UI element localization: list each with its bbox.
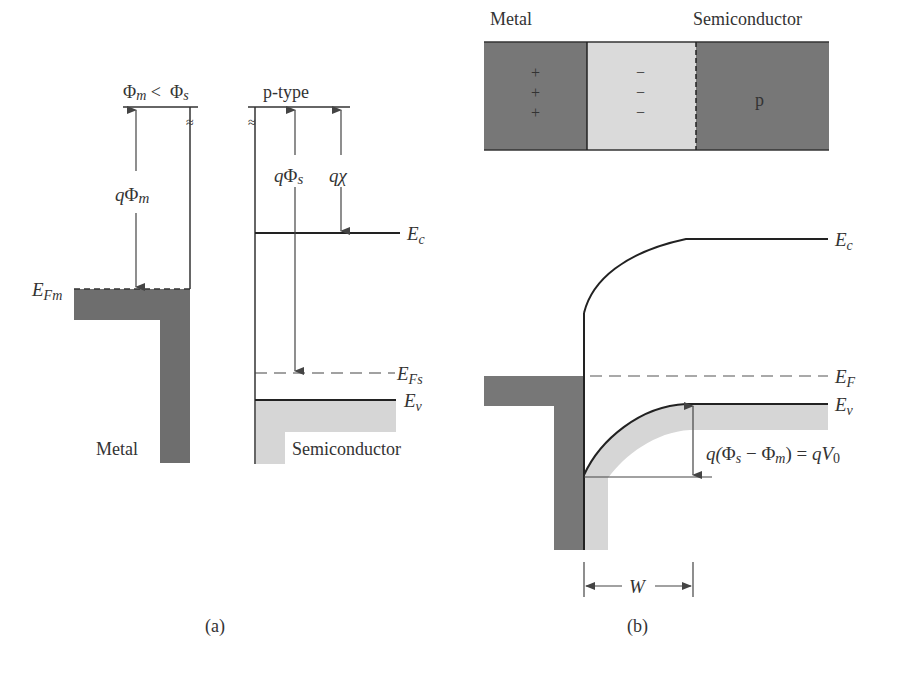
- break-symbol-icon: ≈: [248, 115, 256, 130]
- conduction-band-curve: [584, 239, 828, 313]
- panel-b-caption: (b): [627, 616, 648, 637]
- q-phi-m-label: qΦm: [115, 184, 149, 206]
- minus-sign: −: [636, 64, 645, 81]
- width-label: W: [629, 576, 647, 597]
- e-fs-label: EFs: [396, 363, 423, 387]
- e-c-label: Ec: [406, 223, 426, 247]
- valence-band-fill: [584, 404, 828, 478]
- positive-charges: + + +: [531, 64, 540, 121]
- panel-a: Φm < Φs p-type ≈ qΦm EFm Metal ≈ Ec: [31, 82, 426, 637]
- semiconductor-surface-fill: [584, 478, 608, 550]
- work-function-condition: Φm < Φs: [123, 82, 189, 103]
- e-v-label: Ev: [403, 390, 423, 414]
- e-c-label: Ec: [834, 229, 854, 253]
- panel-a-caption: (a): [205, 616, 225, 637]
- e-f-label: EF: [834, 366, 856, 390]
- p-label: p: [755, 90, 764, 110]
- barrier-height-label: q(Φs − Φm) = qV0: [706, 443, 840, 466]
- top-semiconductor-label: Semiconductor: [693, 9, 802, 29]
- top-metal-label: Metal: [490, 9, 532, 29]
- plus-sign: +: [531, 84, 540, 101]
- minus-sign: −: [636, 104, 645, 121]
- break-symbol-icon: ≈: [186, 115, 194, 130]
- semiconductor-type-label: p-type: [263, 82, 309, 102]
- metal-semiconductor-diagram: Φm < Φs p-type ≈ qΦm EFm Metal ≈ Ec: [0, 0, 905, 686]
- metal-label: Metal: [96, 439, 138, 459]
- q-phi-s-label: qΦs: [274, 165, 303, 187]
- panel-b: Metal Semiconductor + + + − − − p Ec: [484, 9, 856, 637]
- semiconductor-label: Semiconductor: [292, 439, 401, 459]
- e-v-label: Ev: [834, 394, 854, 418]
- metal-band-block: [484, 376, 584, 550]
- q-chi-label: qχ: [329, 165, 348, 186]
- negative-charges: − − −: [636, 64, 645, 121]
- minus-sign: −: [636, 84, 645, 101]
- plus-sign: +: [531, 104, 540, 121]
- metal-block: [74, 289, 190, 463]
- plus-sign: +: [531, 64, 540, 81]
- e-fm-label: EFm: [31, 279, 62, 303]
